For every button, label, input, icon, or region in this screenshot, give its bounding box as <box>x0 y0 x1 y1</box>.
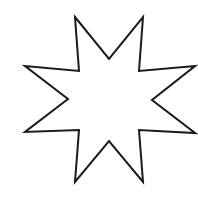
star-figure <box>0 0 198 214</box>
eight-pointed-star-shape <box>25 17 195 182</box>
diagram-canvas <box>0 0 198 214</box>
